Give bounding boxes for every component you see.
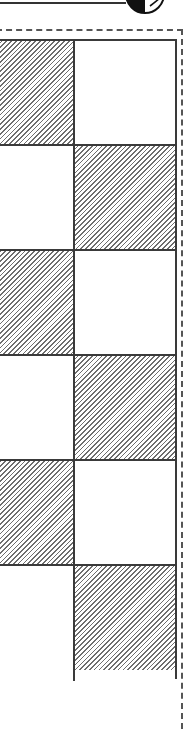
grid-cell-plain [0,565,74,670]
grid-cell-hatched [74,355,175,460]
grid-cell-hatched [0,460,74,565]
grid-cell-plain [74,250,175,355]
checker-grid [0,39,177,679]
half-black-half-white-circle-icon [112,0,188,14]
top-rule [0,2,126,4]
grid-cell-plain [0,355,74,460]
grid-cell-hatched [74,145,175,250]
grid-cell-hatched [0,41,74,146]
grid-cell-plain [74,460,175,565]
row-divider [0,459,177,461]
grid-cell-hatched [74,565,175,670]
grid-cell-plain [0,145,74,250]
row-divider [0,249,177,251]
row-divider [0,354,177,356]
grid-cell-plain [74,41,175,146]
row-divider [0,144,177,146]
column-divider [73,41,75,681]
grid-cell-hatched [0,250,74,355]
row-divider [0,564,177,566]
